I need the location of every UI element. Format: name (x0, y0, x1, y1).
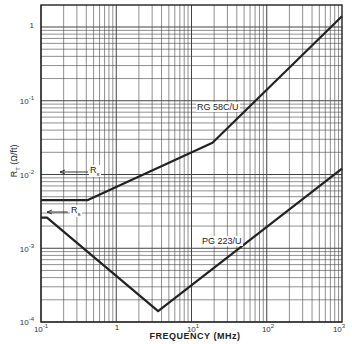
y-tick-1e-3: 10-3 (4, 243, 34, 254)
y-tick-text: 10 (20, 245, 29, 254)
y-tick-exp: -2 (29, 169, 34, 175)
y-tick-1: 1 (4, 21, 34, 30)
rs-sub: s (78, 211, 81, 217)
y-tick-text: 1 (30, 21, 34, 30)
x-tick-exp: -1 (43, 323, 48, 329)
x-tick-exp: 2 (271, 323, 274, 329)
x-axis-title: FREQUENCY (MHz) (120, 331, 270, 341)
y-tick-text: 10 (20, 97, 29, 106)
y-tick-exp: -3 (29, 243, 34, 249)
y-axis-subscript: T (15, 167, 21, 171)
y-tick-text: 10 (20, 171, 29, 180)
x-tick-text: 1 (115, 323, 119, 332)
series-label-rg58: RG 58C/U (196, 102, 240, 112)
x-tick-1e-1: 10-1 (26, 323, 56, 334)
y-tick-exp: -4 (29, 316, 34, 322)
rs-label-lower: Rs (70, 205, 82, 217)
rs-arrows (47, 170, 88, 214)
rs-sub: s (97, 171, 100, 177)
y-tick-exp: -1 (29, 95, 34, 101)
grid-lines (41, 5, 342, 322)
x-tick-exp: 3 (342, 323, 345, 329)
y-axis-title: RT (Ω/ft) (9, 126, 21, 196)
x-tick-exp: 1 (196, 323, 199, 329)
series-label-rg223: PG 223/U (201, 236, 243, 246)
x-tick-1e3: 103 (324, 323, 352, 334)
rs-label-upper: Rs (89, 165, 101, 177)
y-tick-1e-1: 10-1 (4, 95, 34, 106)
plot-area (0, 0, 352, 344)
y-axis-symbol: R (9, 171, 19, 178)
x-tick-text: 10 (333, 325, 342, 334)
x-tick-text: 10 (34, 325, 43, 334)
y-axis-units: (Ω/ft) (9, 144, 19, 167)
